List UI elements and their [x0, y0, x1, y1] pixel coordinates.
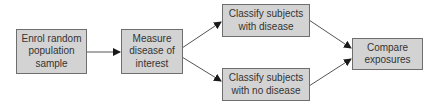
arrow-no-disease-to-compare: [309, 59, 351, 86]
arrow-with-disease-to-compare: [309, 20, 351, 48]
node-enrol: Enrol random population sample: [16, 29, 87, 74]
node-measure: Measure disease of interest: [121, 29, 183, 74]
arrow-measure-to-with-disease: [182, 22, 221, 48]
node-compare: Compare exposures: [352, 38, 423, 70]
node-with-disease: Classify subjects with disease: [222, 4, 310, 37]
flow-diagram: Enrol random population sample Measure d…: [0, 0, 438, 106]
arrow-measure-to-no-disease: [182, 57, 221, 81]
node-no-disease: Classify subjects with no disease: [222, 68, 310, 101]
